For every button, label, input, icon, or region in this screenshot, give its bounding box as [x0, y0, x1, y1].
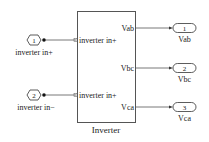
block-output-port-1: Vab	[122, 24, 134, 33]
arrow-head-icon	[169, 106, 173, 109]
inport-2[interactable]: 2	[27, 90, 46, 100]
block-output-port-2: Vbc	[121, 64, 135, 73]
inport-1-label: inverter in+	[15, 48, 53, 57]
inport-number: 1	[32, 37, 36, 45]
inport-1[interactable]: 1	[27, 35, 46, 45]
arrow-head-icon	[169, 67, 173, 70]
arrow-head-icon	[169, 27, 173, 30]
simulink-diagram: Inverter 1 inverter in+ inverter in+ 2 i…	[0, 0, 209, 142]
block-output-port-3: Vca	[121, 103, 134, 112]
block-input-port-2: inverter in+	[79, 91, 117, 100]
outport-number: 1	[183, 25, 187, 33]
inport-2-label: inverter in−	[17, 103, 55, 112]
outport-1-label: Vab	[178, 35, 190, 44]
block-name-label: Inverter	[92, 125, 120, 135]
outport-2-label: Vbc	[178, 75, 192, 84]
outport-number: 3	[183, 104, 187, 112]
inport-number: 2	[32, 92, 36, 100]
outport-1[interactable]: 1	[173, 24, 196, 34]
outport-number: 2	[183, 65, 187, 73]
block-input-port-1: inverter in+	[79, 36, 117, 45]
outport-3-label: Vca	[178, 114, 191, 123]
outport-3[interactable]: 3	[173, 103, 196, 113]
outport-2[interactable]: 2	[173, 64, 196, 74]
